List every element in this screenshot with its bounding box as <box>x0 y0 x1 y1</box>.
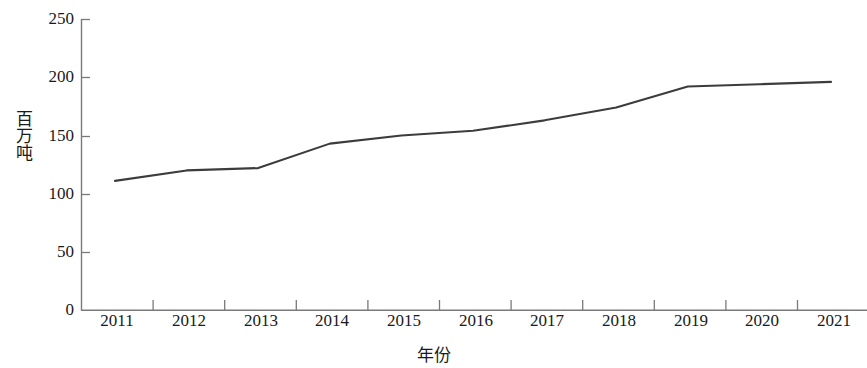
data-line-series-1 <box>115 82 831 181</box>
line-chart: 百万吨 250 200 150 100 50 0 2011 2012 2013 … <box>0 0 867 368</box>
plot-area <box>0 0 867 368</box>
x-axis-ticks <box>153 300 797 310</box>
y-axis-ticks <box>82 20 91 253</box>
axis-spines <box>81 19 867 311</box>
